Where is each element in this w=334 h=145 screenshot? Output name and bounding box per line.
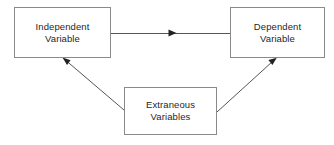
node-independent-variable-label: Independent Variable [36, 21, 90, 45]
node-dependent-variable: Dependent Variable [230, 7, 325, 58]
node-extraneous-variables-label: Extraneous Variables [146, 99, 195, 123]
edge-independent-to-dependent [111, 30, 230, 37]
edge-line-extraneous-to-independent [67, 61, 125, 110]
edge-extraneous-to-independent [63, 58, 125, 111]
node-dependent-variable-label: Dependent Variable [254, 21, 301, 45]
edge-extraneous-to-dependent [217, 58, 277, 112]
diagram-canvas: Independent Variable Dependent Variable … [0, 0, 334, 145]
node-extraneous-variables: Extraneous Variables [124, 87, 217, 135]
arrowhead-independent-to-dependent [169, 30, 177, 37]
node-independent-variable: Independent Variable [14, 7, 111, 58]
edge-line-extraneous-to-dependent [217, 62, 273, 113]
